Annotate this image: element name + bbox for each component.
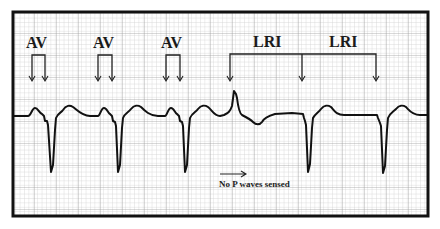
av-label: AV (161, 34, 182, 51)
lri-label: LRI (329, 33, 357, 50)
note-text: No P waves sensed (219, 179, 290, 189)
av-label: AV (93, 34, 114, 51)
ecg-diagram: AV AV AV LRI LRI No P waves sensed (0, 0, 440, 229)
lri-label: LRI (253, 33, 281, 50)
av-label: AV (26, 34, 47, 51)
